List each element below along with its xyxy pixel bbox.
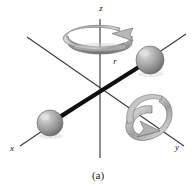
lower-left-mass	[37, 110, 63, 139]
rigid-rotor-diagram: z x y r (a)	[0, 0, 192, 187]
z-axis-rotation-arrow	[63, 25, 133, 54]
upper-right-mass	[136, 46, 164, 77]
radius-label-r: r	[113, 56, 117, 66]
axis-label-y: y	[174, 142, 179, 152]
y-axis-rotation-arrow	[126, 94, 172, 140]
axis-label-z: z	[98, 3, 103, 13]
axis-label-x: x	[9, 143, 14, 153]
figure-caption: (a)	[92, 169, 105, 182]
figure-container: z x y r (a)	[0, 0, 192, 187]
